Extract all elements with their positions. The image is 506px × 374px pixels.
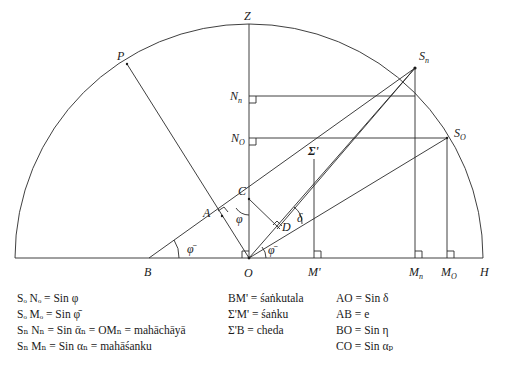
label-Mn: Mn — [408, 265, 423, 281]
angle-label-delta: δ — [297, 211, 303, 225]
legend-item: Sₙ Mₙ = Sin αₙ = mahāśanku — [17, 338, 186, 354]
legend-item: Σ'M' = śaṅku — [228, 306, 304, 322]
point-P — [126, 63, 128, 65]
label-M-prime: M' — [307, 265, 321, 279]
point-Sn — [413, 66, 416, 69]
legend-item: BM' = śaṅkutala — [228, 290, 304, 306]
legend-item: Sₙ Nₙ = Sin ᾱₙ = OMₙ = mahāchāyā — [17, 322, 186, 338]
label-P: P — [116, 49, 125, 63]
point-O — [248, 257, 251, 260]
line-D-Sn — [277, 68, 415, 229]
legend-item: AB = e — [336, 306, 393, 322]
label-No: NO — [230, 131, 245, 147]
legend-column-2: BM' = śaṅkutala Σ'M' = śaṅku Σ'B = cheda — [228, 290, 304, 338]
label-H: H — [479, 265, 490, 279]
label-Sigma-prime: Σ' — [307, 144, 319, 158]
legend-item: BO = Sin η — [336, 322, 393, 338]
right-angle-Nn — [249, 96, 256, 103]
label-Sn: Sn — [419, 49, 429, 65]
legend-column-1: Sₒ Nₒ = Sin φ Sₒ Mₒ = Sin φ̄ Sₙ Nₙ = Sin… — [17, 290, 186, 354]
legend-column-3: AO = Sin δ AB = e BO = Sin η CO = Sin αₚ — [336, 290, 393, 354]
point-So — [446, 137, 448, 139]
label-Z: Z — [244, 9, 251, 23]
right-angle-Mo — [447, 251, 454, 258]
angle-arc-B — [174, 240, 179, 258]
label-B: B — [144, 265, 152, 279]
right-angle-No — [249, 138, 256, 145]
line-O-So — [249, 138, 447, 258]
angle-label-phi-C: φ — [236, 212, 243, 226]
label-C: C — [238, 184, 247, 198]
right-angle-Mn — [415, 251, 422, 258]
legend-item: Sₒ Mₒ = Sin φ̄ — [17, 306, 186, 322]
legend-item: CO = Sin αₚ — [336, 338, 393, 354]
label-D: D — [281, 220, 291, 234]
label-O: O — [244, 266, 253, 280]
legend-item: Sₒ Nₒ = Sin φ — [17, 290, 186, 306]
label-So: SO — [454, 126, 466, 142]
label-Mo: MO — [440, 265, 457, 281]
label-Nn: Nn — [229, 89, 242, 105]
label-A: A — [202, 206, 211, 220]
line-C-D — [249, 199, 280, 229]
legend-item: AO = Sin δ — [336, 290, 393, 306]
point-A — [221, 215, 223, 217]
point-C — [248, 198, 250, 200]
right-angle-Mprime — [314, 251, 321, 258]
legend-item: Σ'B = cheda — [228, 322, 304, 338]
angle-label-phi-bar-O: φ̄ — [268, 243, 278, 257]
angle-label-phi-bar-B: φ̄ — [187, 242, 197, 256]
